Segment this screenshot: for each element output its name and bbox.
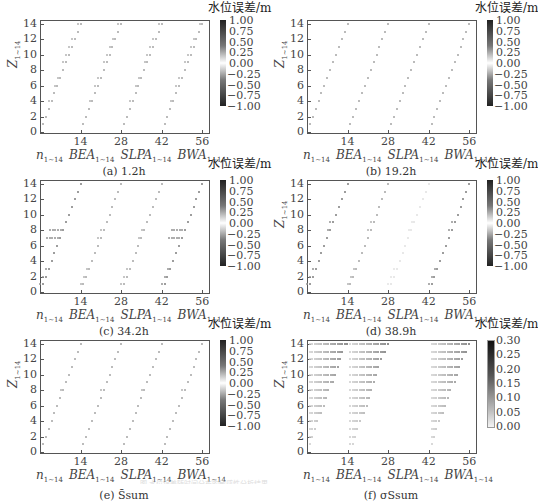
y-tick-label: 10: [288, 49, 304, 60]
data-point: [312, 276, 314, 278]
data-point: [175, 252, 177, 254]
data-point: [166, 436, 168, 438]
data-point: [140, 77, 142, 79]
data-point: [126, 268, 128, 270]
data-point: [167, 268, 169, 270]
y-tick-label: 14: [288, 178, 304, 189]
data-point: [193, 38, 195, 40]
data-point: [373, 61, 375, 63]
y-tick-label: 2: [21, 111, 37, 122]
colorbar-tick-label: −1.00: [227, 261, 261, 272]
data-point: [433, 116, 435, 118]
data-point: [126, 116, 128, 118]
y-tick-mark: [308, 132, 311, 133]
data-point: [435, 358, 437, 360]
data-point: [376, 54, 378, 56]
data-point: [168, 237, 170, 239]
y-tick-label: 10: [288, 209, 304, 220]
data-point: [425, 31, 427, 33]
data-point: [390, 283, 392, 285]
data-point: [190, 374, 192, 376]
data-point: [413, 61, 415, 63]
data-point: [393, 268, 395, 270]
data-point: [45, 268, 47, 270]
data-point: [49, 229, 51, 231]
data-point: [367, 237, 369, 239]
data-point: [146, 381, 148, 383]
data-point: [53, 92, 55, 94]
data-point: [355, 268, 357, 270]
data-point: [176, 237, 178, 239]
x-tick-label: 56: [190, 296, 214, 307]
data-point: [311, 374, 313, 376]
data-point: [109, 46, 111, 48]
colorbar-tick-label: 0.15: [496, 378, 521, 389]
y-tick-label: 8: [21, 384, 37, 395]
data-point: [451, 229, 453, 231]
data-point: [341, 351, 343, 353]
data-point: [68, 46, 70, 48]
colorbar-tick-label: 0.20: [496, 364, 521, 375]
data-point: [337, 366, 339, 368]
data-point: [387, 23, 389, 25]
data-point: [377, 343, 379, 345]
data-point: [435, 428, 437, 430]
chart-panel-f: 水位误差/m0246810121414284256Z1~14n1~14BEA1~…: [267, 320, 533, 480]
data-point: [435, 389, 437, 391]
data-point: [367, 77, 369, 79]
data-point: [320, 92, 322, 94]
data-point: [85, 276, 87, 278]
data-point: [422, 38, 424, 40]
data-point: [132, 420, 134, 422]
y-tick-label: 2: [288, 111, 304, 122]
data-point: [171, 229, 173, 231]
y-tick-label: 4: [21, 255, 37, 266]
data-point: [149, 374, 151, 376]
data-point: [410, 229, 412, 231]
y-label-main: Z: [273, 220, 287, 228]
data-point: [89, 100, 91, 102]
data-point: [201, 23, 203, 25]
data-point: [442, 412, 444, 414]
y-tick-label: 4: [288, 255, 304, 266]
data-point: [428, 23, 430, 25]
data-point: [137, 245, 139, 247]
data-point: [137, 405, 139, 407]
data-point: [132, 260, 134, 262]
x-tick-label: 56: [457, 296, 481, 307]
y-tick-label: 2: [288, 271, 304, 282]
data-point: [129, 268, 131, 270]
y-tick-mark: [41, 292, 44, 293]
data-point: [306, 283, 308, 285]
data-point: [45, 436, 47, 438]
data-point: [462, 38, 464, 40]
data-point: [48, 108, 50, 110]
data-point: [77, 23, 79, 25]
y-tick-label: 0: [288, 446, 304, 457]
data-point: [338, 46, 340, 48]
data-point: [410, 69, 412, 71]
data-point: [123, 276, 125, 278]
y-tick-label: 10: [21, 49, 37, 60]
data-point: [311, 358, 313, 360]
data-point: [137, 85, 139, 87]
data-point: [143, 69, 145, 71]
x-tick-label: 42: [150, 136, 174, 147]
data-point: [42, 123, 44, 125]
y-tick-label: 8: [288, 64, 304, 75]
data-point: [468, 23, 470, 25]
data-point: [358, 260, 360, 262]
data-point: [114, 358, 116, 360]
data-point: [106, 381, 108, 383]
data-point: [201, 343, 203, 345]
data-point: [169, 428, 171, 430]
y-tick-label: 14: [21, 178, 37, 189]
data-point: [45, 116, 47, 118]
data-point: [355, 108, 357, 110]
data-point: [88, 108, 90, 110]
data-point: [448, 229, 450, 231]
data-point: [111, 46, 113, 48]
data-point: [457, 54, 459, 56]
data-point: [413, 221, 415, 223]
y-axis-label: Z1~14: [6, 360, 22, 388]
